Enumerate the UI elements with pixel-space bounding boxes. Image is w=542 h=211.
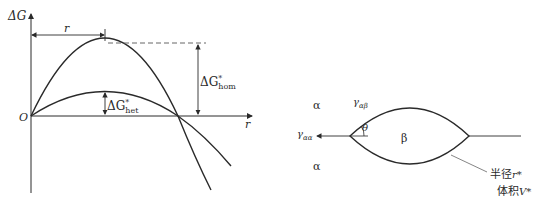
het-barrier-label-html: ΔG*het — [107, 98, 138, 115]
theta-label: θ — [362, 122, 368, 133]
radius-label: 半径r* — [490, 165, 522, 181]
radius-leader-line — [451, 155, 487, 172]
het-sub: het — [125, 106, 138, 115]
hom-delta-g: ΔG — [200, 75, 218, 89]
volume-label: 体积V* — [497, 182, 531, 198]
gamma-ab-sub: αβ — [359, 102, 368, 110]
phase-beta: β — [401, 132, 407, 145]
hom-barrier-label-html: ΔG*hom — [200, 74, 238, 91]
volume-label-cn: 体积 — [497, 185, 519, 198]
y-axis-label: ΔG — [7, 9, 27, 23]
origin-label: O — [19, 111, 28, 124]
volume-symbol: V* — [519, 186, 531, 197]
gamma-ab-label: γαβ — [353, 96, 368, 110]
lens-nucleus-diagram: α α β — [313, 99, 521, 173]
gamma-aa-sub: αα — [303, 134, 312, 142]
radius-marker-label: r — [64, 22, 70, 35]
nucleation-figure: ΔG r O r α α β — [0, 0, 542, 211]
phase-alpha-top: α — [313, 99, 321, 112]
het-delta-g: ΔG — [107, 99, 125, 113]
hom-sub: hom — [218, 82, 236, 91]
phase-alpha-bottom: α — [313, 160, 321, 173]
gamma-aa-label: γαα — [297, 128, 312, 142]
radius-label-cn: 半径 — [490, 168, 512, 181]
radius-symbol: r* — [512, 169, 522, 180]
x-axis-label: r — [245, 118, 251, 131]
